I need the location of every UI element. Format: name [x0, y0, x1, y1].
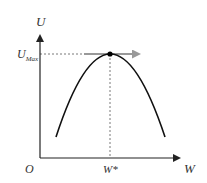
utility-curve: [56, 54, 165, 137]
umax-label: UMax: [17, 47, 39, 63]
wstar-label: W*: [103, 163, 118, 175]
origin-label: O: [25, 162, 34, 176]
umax-label-sub: Max: [25, 55, 39, 63]
y-axis-label: U: [36, 14, 47, 29]
utility-diagram: U UMax O W* W: [0, 0, 207, 183]
peak-point: [107, 51, 112, 56]
x-axis-label: W: [184, 161, 196, 176]
